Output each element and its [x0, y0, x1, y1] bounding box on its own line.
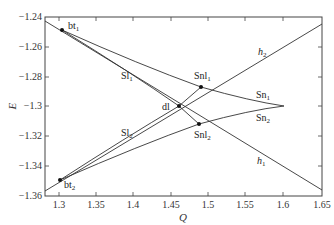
curve-Sn2	[60, 106, 284, 180]
x-tick-labels: 1.3 1.35 1.4 1.45 1.5 1.55 1.6 1.65	[53, 199, 331, 210]
point-bt2	[58, 178, 62, 182]
y-axis-title: E	[6, 102, 18, 110]
x-tick-label: 1.5	[202, 199, 215, 210]
point-dl	[177, 104, 181, 108]
curve-Sn1	[62, 30, 284, 106]
label-Sn1: Sn1	[256, 89, 271, 102]
x-tick-label: 1.6	[277, 199, 290, 210]
x-tick-label: 1.45	[162, 199, 180, 210]
curves	[45, 21, 322, 191]
y-tick-label: −1.32	[19, 130, 42, 141]
special-points	[58, 28, 203, 182]
y-tick-label: −1.3	[24, 100, 42, 111]
y-tick-label: −1.24	[19, 11, 42, 22]
x-tick-label: 1.3	[53, 199, 66, 210]
x-tick-label: 1.55	[236, 199, 254, 210]
label-h2: h2	[258, 46, 267, 59]
y-tick-label: −1.34	[19, 160, 42, 171]
label-bt1: bt1	[68, 20, 80, 33]
curve-h2	[45, 24, 322, 191]
label-Snl1: Snl1	[194, 70, 211, 83]
label-Sl2: Sl2	[121, 127, 133, 140]
point-Snl2	[197, 122, 201, 126]
y-tick-label: −1.26	[19, 41, 42, 52]
y-tick-label: −1.36	[19, 190, 42, 201]
label-bt2: bt2	[64, 179, 76, 192]
point-bt1	[60, 28, 64, 32]
label-dl: dl	[162, 101, 170, 112]
y-tick-labels: −1.24 −1.26 −1.28 −1.3 −1.32 −1.34 −1.36	[19, 11, 42, 201]
annotations: bt1 bt2 dl Snl1 Snl2 Sl1 Sl2 Sn1 Sn2 h2 …	[64, 20, 271, 192]
x-tick-label: 1.35	[87, 199, 105, 210]
point-Snl1	[199, 85, 203, 89]
label-Snl2: Snl2	[194, 129, 211, 142]
x-tick-label: 1.4	[127, 199, 140, 210]
x-axis-title: Q	[179, 211, 187, 223]
label-Sl1: Sl1	[121, 70, 133, 83]
x-tick-label: 1.65	[313, 199, 331, 210]
bifurcation-chart: 1.3 1.35 1.4 1.45 1.5 1.55 1.6 1.65 Q −1…	[0, 0, 334, 225]
label-Sn2: Sn2	[256, 112, 271, 125]
y-tick-label: −1.28	[19, 71, 42, 82]
label-h1: h1	[257, 155, 266, 168]
